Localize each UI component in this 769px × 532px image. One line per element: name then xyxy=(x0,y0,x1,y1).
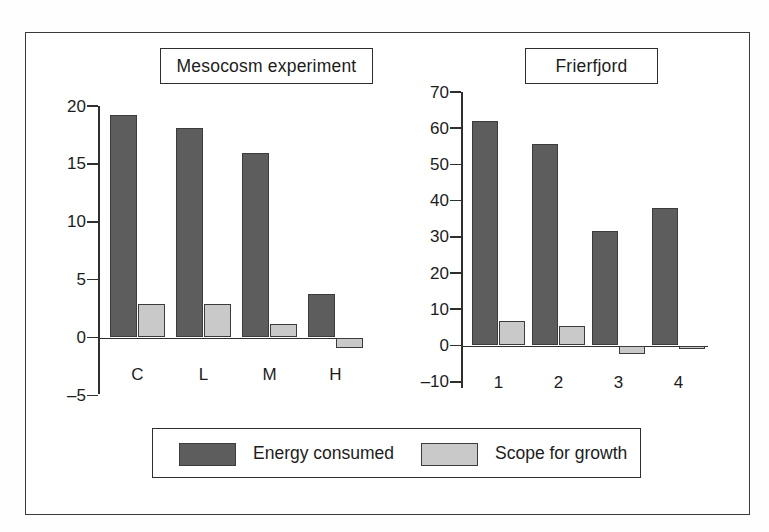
zero-baseline-frierfjord xyxy=(461,346,708,348)
y-tick-mark xyxy=(450,200,461,202)
y-axis-spine-frierfjord xyxy=(461,92,463,388)
figure-canvas: Mesocosm experiment Frierfjord 20151050–… xyxy=(0,0,769,532)
y-tick-mark xyxy=(450,91,461,93)
bar-energy-consumed xyxy=(532,144,558,345)
x-axis-category-label: H xyxy=(298,366,373,383)
y-tick-mark xyxy=(87,279,98,281)
bar-scope-for-growth xyxy=(336,338,363,348)
y-tick-label: 5 xyxy=(22,271,86,288)
y-tick-label: 50 xyxy=(385,156,449,173)
legend-swatch-scope-for-growth xyxy=(421,443,478,466)
y-tick-label: 20 xyxy=(22,98,86,115)
y-tick-label: 30 xyxy=(385,228,449,245)
y-tick-mark xyxy=(87,105,98,107)
legend-label-energy-consumed: Energy consumed xyxy=(253,445,394,463)
bar-scope-for-growth xyxy=(499,321,525,346)
bar-energy-consumed xyxy=(652,208,678,346)
zero-baseline-mesocosm xyxy=(98,338,360,340)
y-tick-mark xyxy=(450,127,461,129)
y-tick-label: 20 xyxy=(385,265,449,282)
panel-title-mesocosm: Mesocosm experiment xyxy=(160,48,373,84)
y-tick-mark xyxy=(450,308,461,310)
y-tick-label: 0 xyxy=(385,337,449,354)
y-tick-mark xyxy=(450,345,461,347)
y-tick-label: –5 xyxy=(22,387,86,404)
y-axis-spine-mesocosm xyxy=(98,106,100,394)
bar-scope-for-growth xyxy=(204,304,231,338)
chart-legend: Energy consumed Scope for growth xyxy=(152,428,641,478)
bar-scope-for-growth xyxy=(138,304,165,338)
y-tick-mark xyxy=(87,221,98,223)
y-tick-label: 15 xyxy=(22,155,86,172)
x-axis-category-label: 4 xyxy=(642,374,715,391)
bar-scope-for-growth xyxy=(679,346,705,350)
bar-scope-for-growth xyxy=(270,324,297,338)
legend-item-scope-for-growth: Scope for growth xyxy=(421,441,627,467)
x-axis-category-label: M xyxy=(232,366,307,383)
panel-title-frierfjord-label: Frierfjord xyxy=(555,56,627,77)
x-axis-category-label: C xyxy=(100,366,175,383)
y-tick-label: 70 xyxy=(385,84,449,101)
y-tick-mark xyxy=(87,337,98,339)
y-tick-mark xyxy=(450,164,461,166)
legend-label-scope-for-growth: Scope for growth xyxy=(495,445,627,463)
y-tick-label: –10 xyxy=(385,373,449,390)
bar-energy-consumed xyxy=(176,128,203,338)
legend-item-energy-consumed: Energy consumed xyxy=(179,441,394,467)
y-tick-label: 40 xyxy=(385,192,449,209)
y-tick-label: 0 xyxy=(22,329,86,346)
panel-title-mesocosm-label: Mesocosm experiment xyxy=(177,56,357,77)
y-tick-mark xyxy=(450,236,461,238)
bar-scope-for-growth xyxy=(559,326,585,346)
bar-energy-consumed xyxy=(242,153,269,337)
y-tick-mark xyxy=(450,272,461,274)
bar-energy-consumed xyxy=(472,121,498,346)
y-tick-mark xyxy=(87,163,98,165)
bar-energy-consumed xyxy=(308,294,335,338)
x-axis-category-label: L xyxy=(166,366,241,383)
legend-swatch-energy-consumed xyxy=(179,443,236,466)
y-tick-mark xyxy=(450,381,461,383)
panel-title-frierfjord: Frierfjord xyxy=(525,48,658,84)
bar-energy-consumed xyxy=(110,115,137,337)
bar-scope-for-growth xyxy=(619,346,645,355)
y-tick-mark xyxy=(87,395,98,397)
y-tick-label: 10 xyxy=(385,301,449,318)
y-tick-label: 60 xyxy=(385,120,449,137)
bar-energy-consumed xyxy=(592,231,618,345)
y-tick-label: 10 xyxy=(22,213,86,230)
